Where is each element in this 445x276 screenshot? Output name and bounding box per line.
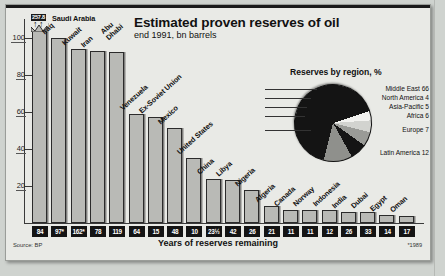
bar bbox=[148, 117, 163, 223]
y-tick-label: 20 bbox=[16, 181, 26, 191]
category-label: India bbox=[330, 192, 348, 210]
x-axis-baseline bbox=[24, 223, 424, 224]
y-tick-label: 100 bbox=[11, 33, 26, 43]
y-tick-label: 40 bbox=[16, 144, 26, 154]
pie-legend-item: Africa 6 bbox=[407, 112, 429, 119]
years-remaining-chip: 11 bbox=[302, 226, 318, 237]
legend-leader-line bbox=[265, 98, 311, 99]
category-label: Nigeria bbox=[233, 165, 257, 188]
y-tick bbox=[25, 38, 32, 39]
years-remaining-chip: 26 bbox=[244, 226, 260, 237]
years-remaining-chip: 23½ bbox=[206, 226, 222, 237]
bar bbox=[360, 212, 375, 223]
category-label: Iran bbox=[79, 33, 95, 48]
bar bbox=[129, 114, 144, 223]
pie-title: Reserves by region, % bbox=[290, 67, 382, 77]
pie-legend-item: North America 4 bbox=[382, 94, 429, 101]
category-label: Libya bbox=[214, 160, 234, 179]
legend-leader-line bbox=[265, 107, 307, 108]
category-label: AbuDhabi bbox=[99, 17, 124, 42]
bar bbox=[109, 52, 124, 223]
legend-leader-line bbox=[265, 130, 311, 131]
y-tick bbox=[25, 75, 32, 76]
bar bbox=[32, 23, 47, 223]
pie-legend-item: Asia-Pacific 5 bbox=[389, 103, 429, 110]
years-remaining-chip: 33 bbox=[360, 226, 376, 237]
category-label: Egypt bbox=[368, 193, 389, 213]
years-remaining-chip: 12 bbox=[322, 226, 338, 237]
footnote: *1989 bbox=[407, 242, 422, 248]
years-remaining-chip: 15 bbox=[148, 226, 164, 237]
years-remaining-chip: 84 bbox=[32, 226, 48, 237]
y-tick-label: 60 bbox=[16, 107, 26, 117]
bar bbox=[283, 210, 298, 223]
years-remaining-chip: 48 bbox=[167, 226, 183, 237]
bar bbox=[90, 51, 105, 223]
bar bbox=[264, 206, 279, 223]
chart-panel: Estimated proven reserves of oil end 199… bbox=[5, 4, 431, 261]
bar bbox=[341, 212, 356, 223]
y-tick-label: 80 bbox=[16, 70, 26, 80]
page-right-margin bbox=[434, 0, 445, 276]
category-label: Mexico bbox=[156, 104, 180, 127]
years-remaining-chip: 97* bbox=[51, 226, 67, 237]
y-tick bbox=[25, 186, 32, 187]
years-remaining-chip: 10 bbox=[186, 226, 202, 237]
bar bbox=[302, 210, 317, 223]
y-tick bbox=[25, 149, 32, 150]
pie-legend-item: Europe 7 bbox=[402, 126, 429, 133]
years-remaining-chip: 78 bbox=[90, 226, 106, 237]
bar bbox=[379, 215, 394, 223]
years-remaining-chip: 162* bbox=[71, 226, 87, 237]
years-remaining-chip: 42 bbox=[225, 226, 241, 237]
years-remaining-chip: 26 bbox=[341, 226, 357, 237]
pie-chart-block: Reserves by region, % Middle East 66Nort… bbox=[264, 67, 429, 173]
category-label: Oman bbox=[388, 194, 409, 214]
x-axis-title: Years of reserves remaining bbox=[6, 238, 430, 248]
pie-legend-item: Middle East 66 bbox=[385, 85, 429, 92]
bar bbox=[51, 38, 66, 223]
years-remaining-chip: 17 bbox=[399, 226, 415, 237]
legend-leader-line bbox=[265, 116, 305, 117]
pie-legend-item: Latin America 12 bbox=[380, 149, 429, 156]
years-remaining-chip: 14 bbox=[379, 226, 395, 237]
chart-subtitle: end 1991, bn barrels bbox=[134, 30, 217, 40]
category-label: Dubai bbox=[349, 190, 370, 210]
legend-leader-line bbox=[265, 89, 317, 90]
chart-title: Estimated proven reserves of oil bbox=[134, 15, 339, 30]
years-remaining-chip: 21 bbox=[264, 226, 280, 237]
bar bbox=[399, 216, 414, 223]
years-remaining-chip: 64 bbox=[129, 226, 145, 237]
break-arrow-icon: ↑ bbox=[33, 20, 38, 29]
chart-page: Estimated proven reserves of oil end 199… bbox=[0, 0, 445, 276]
years-remaining-chip: 119 bbox=[109, 226, 125, 237]
bar bbox=[167, 128, 182, 223]
y-tick bbox=[25, 112, 32, 113]
bar bbox=[322, 210, 337, 223]
years-remaining-chip: 11 bbox=[283, 226, 299, 237]
bar bbox=[71, 49, 86, 223]
category-label: Saudi Arabia bbox=[52, 14, 95, 23]
bar bbox=[206, 179, 221, 224]
